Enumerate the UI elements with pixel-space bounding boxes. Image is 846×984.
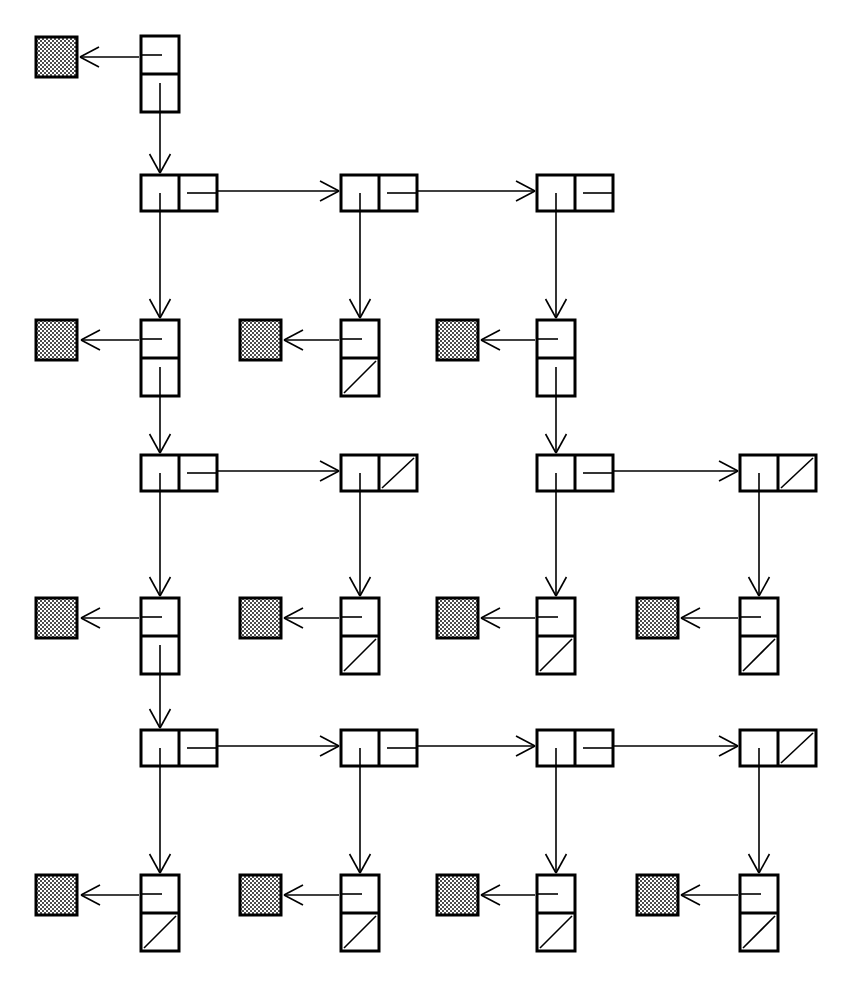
data-block-square: [637, 598, 678, 638]
list-node: [341, 455, 417, 491]
data-block: [437, 320, 478, 360]
list-node: [141, 730, 217, 766]
diagram-canvas: Linked list of lists structure diagram: [0, 0, 846, 984]
data-block: [637, 875, 678, 915]
data-block-square: [36, 875, 77, 915]
element-node: [341, 598, 379, 674]
data-block-square: [36, 320, 77, 360]
list-node: [537, 730, 613, 766]
list-node: [740, 730, 816, 766]
data-block-square: [637, 875, 678, 915]
list-node: [537, 455, 613, 491]
list-node: [341, 730, 417, 766]
linked-structure-diagram: [0, 0, 846, 984]
list-node: [341, 175, 417, 211]
element-node: [537, 320, 575, 396]
data-block: [437, 598, 478, 638]
data-block: [36, 598, 77, 638]
data-block-square: [240, 598, 281, 638]
element-node: [341, 320, 379, 396]
element-node: [141, 598, 179, 674]
data-block: [437, 875, 478, 915]
element-node: [740, 598, 778, 674]
list-node: [740, 455, 816, 491]
data-block-square: [240, 320, 281, 360]
data-block-square: [36, 37, 77, 77]
data-block-square: [240, 875, 281, 915]
element-node: [141, 36, 179, 112]
list-node: [141, 455, 217, 491]
data-block: [240, 598, 281, 638]
data-block: [240, 320, 281, 360]
element-node: [740, 875, 778, 951]
list-node: [141, 175, 217, 211]
element-node: [537, 875, 575, 951]
diagram-row: [141, 175, 613, 211]
data-block: [36, 37, 77, 77]
data-block-square: [437, 875, 478, 915]
element-node: [341, 875, 379, 951]
element-node: [141, 875, 179, 951]
data-block-square: [437, 598, 478, 638]
data-block-square: [36, 598, 77, 638]
element-node: [537, 598, 575, 674]
data-block: [637, 598, 678, 638]
list-node: [537, 175, 613, 211]
diagram-background: [0, 0, 846, 984]
data-block-square: [437, 320, 478, 360]
element-node: [141, 320, 179, 396]
data-block: [36, 875, 77, 915]
data-block: [240, 875, 281, 915]
data-block: [36, 320, 77, 360]
